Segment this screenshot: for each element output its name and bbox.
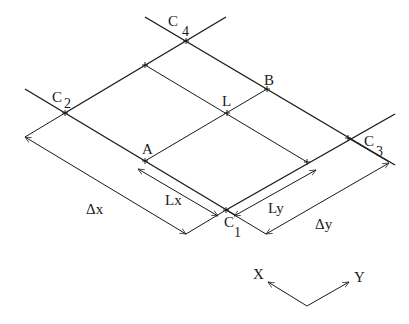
label-a: A xyxy=(142,141,153,157)
label-c1: C xyxy=(224,214,234,230)
label-delta-y: Δy xyxy=(315,216,333,232)
label-lx: Lx xyxy=(165,192,182,208)
grid-line-c4-c3 xyxy=(145,17,395,165)
label-b: B xyxy=(264,72,274,88)
node-marks xyxy=(62,38,351,213)
label-c1-sub: 1 xyxy=(234,225,241,240)
label-c2: C xyxy=(52,89,62,105)
ext-line-c1-x xyxy=(186,210,226,234)
x-axis-arrow xyxy=(268,282,307,306)
label-c3: C xyxy=(364,133,374,149)
y-axis-arrow xyxy=(307,282,349,306)
grid-line-c2-c1 xyxy=(25,89,235,215)
axis-indicator xyxy=(268,282,349,306)
label-ly: Ly xyxy=(268,200,284,216)
grid-cell-diagram: C 4 C 2 C 3 C 1 A B L Δx Lx Ly Δy X Y xyxy=(0,0,409,324)
label-c4-sub: 4 xyxy=(182,24,189,39)
outer-grid-lines xyxy=(25,17,395,215)
grid-line-mid-y xyxy=(145,89,267,161)
label-axis-x: X xyxy=(253,266,264,282)
label-c3-sub: 3 xyxy=(376,144,383,159)
label-c2-sub: 2 xyxy=(64,96,71,111)
inner-grid-lines xyxy=(25,65,389,234)
label-c4: C xyxy=(168,13,178,29)
label-l: L xyxy=(222,93,231,109)
dimension-arrows xyxy=(25,137,389,234)
diagram-svg: C 4 C 2 C 3 C 1 A B L Δx Lx Ly Δy X Y xyxy=(0,0,409,324)
node-a xyxy=(142,158,148,164)
label-delta-x: Δx xyxy=(86,201,104,217)
ext-line-c2 xyxy=(25,113,65,137)
node-right-mid xyxy=(304,159,310,165)
label-axis-y: Y xyxy=(354,269,365,285)
